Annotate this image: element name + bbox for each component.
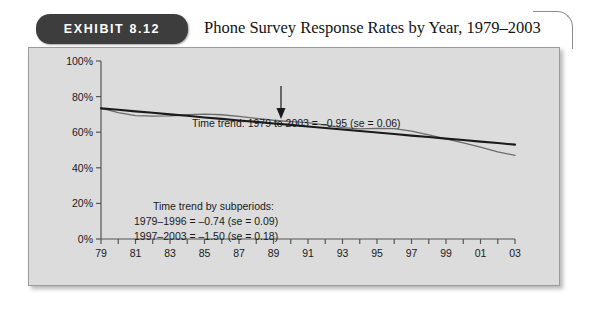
x-axis-tick-label: 95 <box>371 247 383 259</box>
x-axis-tick-label: 03 <box>509 247 521 259</box>
annotation-arrow-icon <box>277 86 286 119</box>
annotation-subperiod-2: 1997–2003 = –1.50 (se = 0.18) <box>134 229 278 244</box>
annotation-subperiods-title: Time trend by subperiods: <box>134 199 278 214</box>
exhibit-figure-screenshot: EXHIBIT 8.12 Phone Survey Response Rates… <box>0 0 592 310</box>
x-axis-tick-label: 93 <box>337 247 349 259</box>
exhibit-badge: EXHIBIT 8.12 <box>36 14 188 44</box>
x-axis-tick-label: 91 <box>302 247 314 259</box>
y-axis-tick-label: 80% <box>49 91 93 103</box>
series-observed-line <box>101 108 515 155</box>
annotation-subperiod-1: 1979–1996 = –0.74 (se = 0.09) <box>134 214 278 229</box>
annotation-overall-trend: Time trend: 1979 to 2003 = –0.95 (se = 0… <box>192 117 401 129</box>
x-axis-tick-label: 99 <box>440 247 452 259</box>
x-axis-tick-label: 85 <box>199 247 211 259</box>
exhibit-header: EXHIBIT 8.12 Phone Survey Response Rates… <box>28 8 562 48</box>
exhibit-title: Phone Survey Response Rates by Year, 197… <box>204 18 541 38</box>
chart-panel: 0%20%40%60%80%100% 798183858789919395979… <box>28 47 560 286</box>
y-axis-tick-label: 0% <box>49 233 93 245</box>
y-axis-ticks <box>96 61 101 239</box>
x-axis-tick-label: 81 <box>130 247 142 259</box>
x-axis-tick-label: 79 <box>95 247 107 259</box>
x-axis-tick-label: 01 <box>475 247 487 259</box>
x-axis-tick-label: 87 <box>233 247 245 259</box>
y-axis-tick-label: 40% <box>49 162 93 174</box>
y-axis-tick-label: 20% <box>49 197 93 209</box>
x-axis-tick-label: 83 <box>164 247 176 259</box>
y-axis-tick-label: 100% <box>49 55 93 67</box>
x-axis-tick-label: 89 <box>268 247 280 259</box>
annotation-subperiods: Time trend by subperiods: 1979–1996 = –0… <box>134 199 278 244</box>
x-axis-tick-label: 97 <box>406 247 418 259</box>
y-axis-tick-label: 60% <box>49 126 93 138</box>
exhibit-badge-label: EXHIBIT 8.12 <box>36 14 188 44</box>
